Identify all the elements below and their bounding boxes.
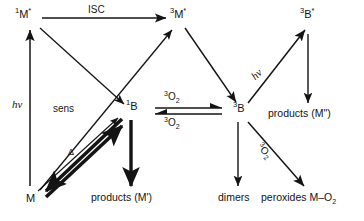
edge-label-o2-lower-base: O <box>168 117 176 128</box>
terminal-peroxides-count: 2 <box>332 198 336 205</box>
edge-label-o2-upper-count: 2 <box>176 97 180 104</box>
node-triplet-m-excited-base: M <box>174 8 183 20</box>
node-singlet-b: 1B <box>126 101 138 112</box>
arrow-triplet-energy-transfer <box>185 28 236 102</box>
arrow-delta-thermal <box>38 118 118 191</box>
node-triplet-m-excited-star: * <box>183 6 186 15</box>
terminal-peroxides: peroxides M–O2 <box>261 192 336 203</box>
node-triplet-m-excited: 3M* <box>170 9 186 20</box>
terminal-products-m-prime: products (M') <box>91 192 152 203</box>
edge-label-o2-upper: 3O2 <box>164 92 180 102</box>
edge-label-o2-lower-count: 2 <box>176 123 180 130</box>
edge-label-isc: ISC <box>88 5 105 15</box>
edge-label-o2-lower: 3O2 <box>164 118 180 128</box>
node-ground-m-base: M <box>26 192 35 204</box>
terminal-dimers: dimers <box>218 192 250 203</box>
node-singlet-m-excited: 1M* <box>15 9 31 20</box>
terminal-products-m-double-prime: products (M") <box>268 108 331 119</box>
node-singlet-b-base: B <box>130 100 137 112</box>
arrow-singlet-energy-transfer <box>40 28 124 104</box>
edge-label-hv-left: hv <box>12 99 22 110</box>
arrow-1b-to-m-thick <box>46 119 122 191</box>
node-triplet-b-excited-star: * <box>312 6 315 15</box>
edge-label-delta: Δ <box>68 148 74 157</box>
node-triplet-b-base: B <box>237 102 244 114</box>
terminal-peroxides-text: peroxides M–O <box>261 191 332 203</box>
node-triplet-b: 3B <box>233 103 245 114</box>
node-ground-m: M <box>26 193 35 204</box>
node-triplet-b-excited: 3B* <box>300 9 314 20</box>
reaction-scheme-diagram: 1M* 3M* 3B* 1B 3B M ISC hv hv sens Δ 3O2… <box>0 0 364 221</box>
edge-label-sens: sens <box>53 104 74 114</box>
node-singlet-m-excited-base: M <box>19 8 28 20</box>
arrow-3b-to-peroxides <box>248 122 304 186</box>
node-singlet-m-excited-star: * <box>28 6 31 15</box>
node-triplet-b-excited-base: B <box>304 8 311 20</box>
edge-label-o2-upper-base: O <box>168 91 176 102</box>
